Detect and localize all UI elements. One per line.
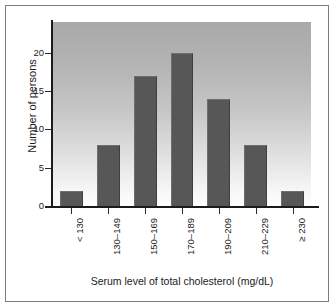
x-axis-tick-label: 130–149: [112, 218, 122, 255]
bar: [171, 53, 194, 206]
bar: [281, 191, 304, 206]
x-axis-tick: [219, 208, 220, 214]
bar: [60, 191, 83, 206]
y-axis-tick: [45, 206, 51, 207]
y-axis-tick: [45, 129, 51, 130]
x-axis-tick: [256, 208, 257, 214]
x-axis-tick-label: ≥ 230: [297, 218, 307, 242]
x-axis-title: Serum level of total cholesterol (mg/dL): [45, 275, 319, 287]
plot-area: [53, 22, 311, 206]
y-axis-tick-label: 0: [20, 201, 44, 211]
y-axis-line: [51, 20, 53, 208]
x-axis-tick: [108, 208, 109, 214]
x-axis-tick-label: 210–229: [260, 218, 270, 255]
x-axis-tick: [293, 208, 294, 214]
bar: [244, 145, 267, 206]
bar: [207, 99, 230, 206]
y-axis-title: Number of persons: [26, 26, 38, 186]
x-axis-tick-label: < 130: [75, 218, 85, 242]
x-axis-tick-label: 150–169: [149, 218, 159, 255]
x-axis-tick: [182, 208, 183, 214]
bar: [134, 76, 157, 206]
bar: [97, 145, 120, 206]
x-axis-tick: [145, 208, 146, 214]
x-axis-tick: [71, 208, 72, 214]
y-axis-tick: [45, 53, 51, 54]
bar-series: [53, 22, 311, 206]
x-axis-tick-label: 190–209: [223, 218, 233, 255]
y-axis-tick: [45, 168, 51, 169]
x-axis-tick-label: 170–189: [186, 218, 196, 255]
chart-figure: 05101520 < 130130–149150–169170–189190–2…: [0, 0, 335, 308]
y-axis-tick: [45, 91, 51, 92]
